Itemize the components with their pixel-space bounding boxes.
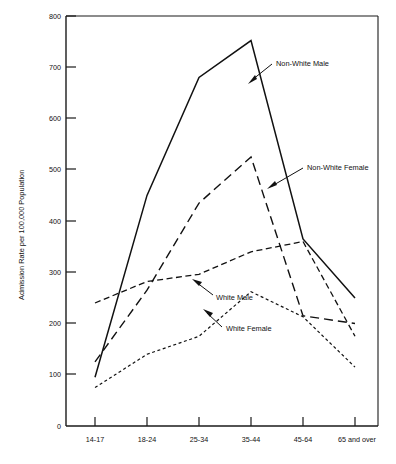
plot-frame bbox=[66, 16, 378, 426]
y-tick-label: 500 bbox=[49, 165, 61, 174]
y-tick-marks bbox=[66, 16, 76, 374]
series-label-white-female: White Female bbox=[226, 324, 272, 333]
series-label-non-white-female: Non-White Female bbox=[307, 163, 369, 172]
annotation-white-female: White Female bbox=[203, 309, 272, 333]
y-tick-label: 600 bbox=[49, 114, 61, 123]
series-line-white-male bbox=[95, 242, 355, 337]
x-tick-label-35-44: 35-44 bbox=[242, 435, 260, 444]
y-tick-label: 0 bbox=[57, 422, 61, 431]
series-line-non-white-male bbox=[95, 41, 355, 378]
y-tick-label: 100 bbox=[49, 370, 61, 379]
admission-rate-line-chart: 800 700 600 500 400 300 200 100 0 Admiss… bbox=[0, 0, 396, 464]
x-tick-label-14-17: 14-17 bbox=[86, 435, 104, 444]
series-line-white-female bbox=[95, 292, 355, 388]
y-tick-label: 800 bbox=[49, 12, 61, 21]
y-tick-label: 700 bbox=[49, 63, 61, 72]
series-label-non-white-male: Non-White Male bbox=[276, 59, 329, 68]
y-axis-title: Admission Rate per 100,000 Population bbox=[17, 170, 26, 300]
series-label-white-male: White Male bbox=[216, 293, 253, 302]
x-tick-label-45-64: 45-64 bbox=[294, 435, 312, 444]
chart-svg: 800 700 600 500 400 300 200 100 0 Admiss… bbox=[0, 0, 396, 464]
annotation-non-white-male: Non-White Male bbox=[248, 59, 329, 84]
annotation-non-white-female: Non-White Female bbox=[267, 163, 369, 189]
annotation-white-male: White Male bbox=[192, 279, 253, 302]
x-tick-label-65-and-over: 65 and over bbox=[338, 435, 377, 444]
series-lines bbox=[95, 41, 355, 388]
y-tick-label: 200 bbox=[49, 319, 61, 328]
y-tick-label: 400 bbox=[49, 217, 61, 226]
y-tick-labels: 800 700 600 500 400 300 200 100 0 bbox=[49, 12, 61, 431]
x-tick-marks bbox=[95, 417, 355, 426]
x-tick-label-18-24: 18-24 bbox=[138, 435, 156, 444]
x-tick-labels: 14-17 18-24 25-34 35-44 45-64 65 and ove… bbox=[86, 435, 377, 444]
series-line-non-white-female bbox=[95, 157, 355, 362]
y-tick-label: 300 bbox=[49, 268, 61, 277]
x-tick-label-25-34: 25-34 bbox=[190, 435, 208, 444]
